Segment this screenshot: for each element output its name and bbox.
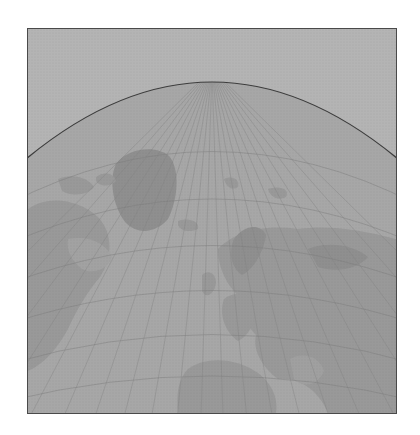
map-frame — [27, 28, 397, 414]
world-map[interactable] — [28, 29, 396, 413]
